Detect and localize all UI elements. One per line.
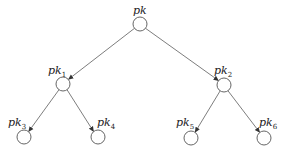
edge-pk1-pk3: [29, 90, 59, 132]
node-circle: [184, 131, 198, 145]
node-pk1: pk1: [48, 64, 70, 91]
node-circle: [217, 78, 231, 92]
node-circle: [91, 130, 105, 144]
edge-pk2-pk6: [228, 91, 260, 133]
node-circle: [56, 77, 70, 91]
node-circle: [133, 17, 147, 31]
node-label: pk: [133, 4, 147, 17]
node-circle: [257, 131, 271, 145]
node-root: pk: [133, 4, 147, 31]
node-pk5: pk5: [176, 116, 198, 145]
node-label: pk6: [259, 116, 278, 131]
node-label: pk3: [8, 116, 26, 131]
node-pk4: pk4: [91, 116, 116, 144]
node-label: pk4: [97, 116, 116, 131]
edge-root-pk1: [68, 28, 134, 79]
node-pk3: pk3: [8, 116, 31, 144]
node-circle: [17, 130, 31, 144]
edge-root-pk2: [146, 28, 219, 80]
node-pk2: pk2: [214, 64, 232, 92]
node-label: pk1: [48, 64, 66, 79]
edge-pk1-pk4: [67, 90, 94, 132]
node-pk6: pk6: [257, 116, 278, 145]
tree-diagram: pk pk1 pk2 pk3 pk4 pk5 pk6: [0, 0, 284, 156]
edge-pk2-pk5: [195, 91, 220, 132]
node-label: pk5: [176, 116, 194, 131]
node-label: pk2: [214, 64, 232, 79]
